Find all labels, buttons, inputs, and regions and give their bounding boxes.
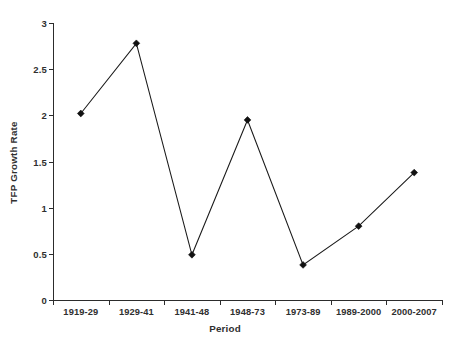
y-tick-label: 1.5 bbox=[33, 156, 47, 167]
y-axis-title-text: TFP Growth Rate bbox=[8, 121, 19, 203]
y-axis-title: TFP Growth Rate bbox=[4, 0, 22, 324]
chart-container: TFP Growth Rate 00.511.522.53 1919-29192… bbox=[0, 0, 459, 352]
plot-area: 00.511.522.53 bbox=[53, 23, 442, 300]
y-tick-label: 2 bbox=[42, 110, 47, 121]
x-tick-mark bbox=[220, 300, 221, 305]
x-tick-label-1941-48: 1941-48 bbox=[175, 307, 210, 317]
y-tick-label: 2.5 bbox=[33, 64, 47, 75]
x-tick-mark bbox=[386, 300, 387, 305]
data-series-layer bbox=[53, 23, 442, 300]
y-tick-label: 3 bbox=[42, 18, 47, 29]
x-tick-mark bbox=[275, 300, 276, 305]
data-point-1948-73 bbox=[244, 117, 251, 124]
x-tick-label-2000-2007: 2000-2007 bbox=[392, 307, 437, 317]
data-point-1973-89 bbox=[300, 262, 307, 269]
series-line-tfp-growth-rate bbox=[81, 43, 414, 265]
y-tick-label: 1 bbox=[42, 202, 47, 213]
x-axis-title-text: Period bbox=[209, 323, 241, 334]
y-tick-label: 0 bbox=[42, 295, 47, 306]
x-axis-title: Period bbox=[0, 323, 459, 334]
series-markers-group bbox=[77, 40, 417, 268]
x-axis-line bbox=[53, 300, 443, 301]
x-tick-label-1919-29: 1919-29 bbox=[63, 307, 98, 317]
x-tick-label-1989-2000: 1989-2000 bbox=[336, 307, 381, 317]
x-tick-mark bbox=[442, 300, 443, 305]
x-tick-mark bbox=[164, 300, 165, 305]
x-tick-label-1929-41: 1929-41 bbox=[119, 307, 154, 317]
x-tick-mark bbox=[109, 300, 110, 305]
x-tick-mark bbox=[53, 300, 54, 305]
x-tick-mark bbox=[331, 300, 332, 305]
y-tick-label: 0.5 bbox=[33, 248, 47, 259]
x-tick-label-1948-73: 1948-73 bbox=[230, 307, 265, 317]
data-point-1941-48 bbox=[189, 251, 196, 258]
x-tick-label-1973-89: 1973-89 bbox=[286, 307, 321, 317]
